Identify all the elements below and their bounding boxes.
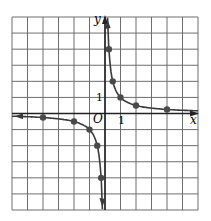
data-point: [40, 114, 46, 120]
data-point: [133, 102, 139, 108]
x-axis-label: x: [190, 113, 197, 127]
data-point: [117, 94, 123, 100]
data-point: [86, 126, 92, 132]
data-point: [94, 142, 100, 148]
y-tick-label: 1: [96, 91, 103, 104]
origin-label: O: [93, 112, 103, 126]
data-point: [71, 118, 77, 124]
x-tick-label: 1: [118, 114, 125, 127]
data-point: [98, 175, 104, 181]
graph: [0, 0, 211, 221]
y-axis-label: y: [94, 12, 101, 26]
data-point: [110, 78, 116, 84]
data-point: [164, 106, 170, 112]
data-point: [106, 46, 112, 52]
